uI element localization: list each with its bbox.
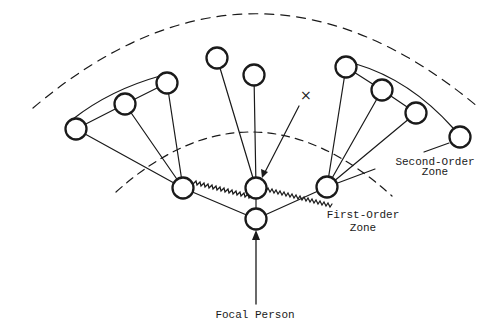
- node-second-right-2: [372, 80, 393, 101]
- focal-person-label: Focal Person: [205, 310, 305, 321]
- node-second-left-1: [66, 119, 87, 140]
- second-order-label-line2: Zone: [385, 167, 485, 178]
- node-focal: [246, 209, 267, 230]
- node-first-center: [246, 178, 267, 199]
- node-second-left-2: [115, 94, 136, 115]
- x-marker: ×: [300, 90, 312, 101]
- x-arrow: [261, 106, 299, 178]
- node-second-right-1: [336, 57, 357, 78]
- focal-arrow: [252, 230, 260, 304]
- node-second-right-4: [450, 127, 471, 148]
- node-first-left: [173, 178, 194, 199]
- first-order-zone-label: First-Order Zone: [318, 210, 408, 234]
- node-first-right: [317, 177, 338, 198]
- second-order-zone-label: Second-Order Zone: [385, 157, 485, 178]
- node-second-right-3: [406, 103, 427, 124]
- first-order-label-line2: Zone: [318, 223, 408, 234]
- first-order-label-line1: First-Order: [318, 210, 408, 221]
- second-order-zone-boundary: [33, 14, 478, 108]
- node-second-left-3: [157, 73, 178, 94]
- node-second-mid-2: [244, 65, 265, 86]
- node-second-mid-1: [207, 48, 228, 69]
